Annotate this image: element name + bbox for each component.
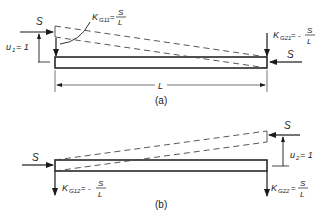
caption-b: (b) xyxy=(155,199,167,210)
caption-a: (a) xyxy=(155,95,167,106)
force-label-right-b: S xyxy=(284,120,291,131)
beam-b xyxy=(55,160,267,171)
k12-symbol: K xyxy=(62,183,69,193)
k21-sub: G21 xyxy=(280,35,291,41)
u2-eq: = 1 xyxy=(300,150,313,160)
k21-den: L xyxy=(307,37,311,46)
k22-den: L xyxy=(300,190,304,199)
deformed-top-b xyxy=(55,131,267,160)
k12-num: S xyxy=(98,179,104,188)
length-label: L xyxy=(158,81,163,91)
k21-symbol: K xyxy=(273,30,280,40)
k12-eq: = - xyxy=(81,184,91,193)
k22-num: S xyxy=(300,179,306,188)
figure-a: S K G11 = S L u 1 = 1 K G21 = - S L S L … xyxy=(6,8,315,106)
k11-symbol: K xyxy=(92,12,99,22)
u1-sub: 1 xyxy=(12,47,15,53)
k11-den: L xyxy=(118,18,122,27)
k22-symbol: K xyxy=(271,183,278,193)
k11-leader xyxy=(60,22,90,44)
k21-num: S xyxy=(307,26,313,35)
k12-sub: G12 xyxy=(69,188,81,194)
force-label-right-a: S xyxy=(287,49,294,60)
k21-eq: = - xyxy=(291,31,301,40)
k11-num: S xyxy=(118,8,124,17)
k22-eq: = xyxy=(291,184,296,193)
k12-den: L xyxy=(98,190,102,199)
force-label-left-b: S xyxy=(32,152,39,163)
geometric-stiffness-diagram: S K G11 = S L u 1 = 1 K G21 = - S L S L … xyxy=(0,0,333,221)
k11-sub: G11 xyxy=(99,17,110,23)
u1-eq: = 1 xyxy=(16,42,29,52)
deformed-bottom-b xyxy=(55,142,267,171)
beam-a xyxy=(55,57,267,68)
k22-sub: G22 xyxy=(278,188,290,194)
figure-b: S K G12 = - S L S u 2 = 1 K G22 = S L (b… xyxy=(22,120,313,210)
k11-eq: = xyxy=(110,13,115,22)
force-label-left-a: S xyxy=(36,16,43,27)
u1-symbol: u xyxy=(6,42,11,52)
u2-symbol: u xyxy=(290,150,295,160)
